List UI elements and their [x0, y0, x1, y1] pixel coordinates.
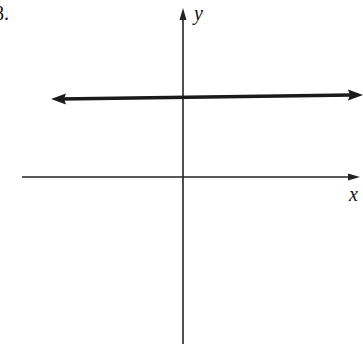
- x-axis-arrow-icon: [348, 174, 360, 181]
- left-arrow-icon: [51, 94, 66, 105]
- y-axis-label: y: [194, 2, 203, 25]
- horizontal-line: [60, 95, 352, 99]
- y-axis-arrow-icon: [180, 8, 187, 20]
- x-axis-label: x: [349, 183, 358, 206]
- right-arrow-icon: [348, 90, 363, 101]
- coordinate-plane: [0, 0, 363, 354]
